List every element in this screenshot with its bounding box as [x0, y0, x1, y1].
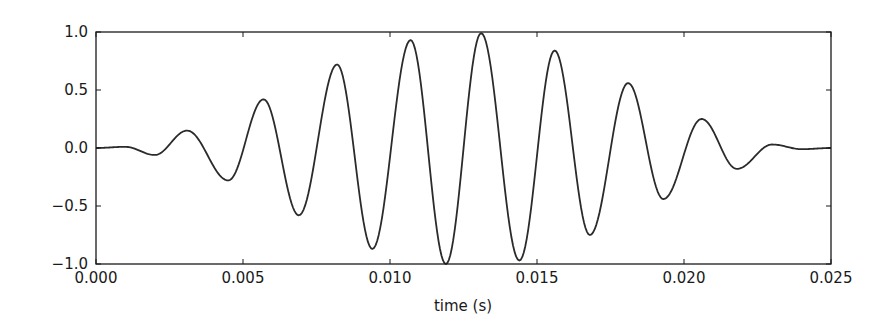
y-tick-label: 0.0 [64, 139, 88, 157]
x-tick-label: 0.005 [222, 269, 265, 287]
y-tick-label: 1.0 [64, 23, 88, 41]
x-tick-label: 0.015 [516, 269, 559, 287]
y-tick-label: −1.0 [52, 255, 88, 273]
y-axis: 1.00.50.0−0.5−1.0 [52, 23, 831, 273]
x-tick-label: 0.020 [663, 269, 706, 287]
x-tick-label: 0.010 [369, 269, 412, 287]
y-tick-label: −0.5 [52, 197, 88, 215]
x-axis: 0.0000.0050.0100.0150.0200.025 [75, 32, 853, 287]
plot-area [96, 32, 831, 264]
y-tick-label: 0.5 [64, 81, 88, 99]
signal-line [96, 33, 831, 264]
x-axis-label: time (s) [434, 297, 492, 315]
line-chart: 0.0000.0050.0100.0150.0200.025 1.00.50.0… [0, 0, 895, 326]
x-tick-label: 0.025 [810, 269, 853, 287]
